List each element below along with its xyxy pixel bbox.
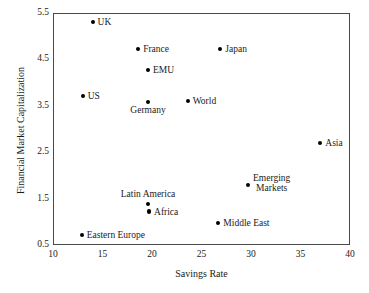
- data-point-label: Emerging Markets: [253, 174, 290, 194]
- y-tick-label: 2.5: [37, 147, 49, 157]
- data-point-marker[interactable]: [147, 209, 151, 213]
- y-tick-label: 0.5: [37, 240, 49, 250]
- data-point-label: Eastern Europe: [87, 231, 145, 241]
- data-point-label: Asia: [325, 139, 342, 149]
- x-axis-title: Savings Rate: [53, 268, 350, 279]
- data-point-label: Japan: [225, 45, 247, 55]
- x-tick-label: 25: [197, 250, 207, 260]
- data-point-marker[interactable]: [146, 202, 150, 206]
- x-tick-label: 35: [296, 250, 306, 260]
- data-point-marker[interactable]: [186, 99, 190, 103]
- data-point-label: Germany: [130, 106, 165, 116]
- data-point-label: US: [88, 92, 100, 102]
- data-point-label: Africa: [154, 208, 178, 218]
- data-point-marker[interactable]: [91, 20, 95, 24]
- y-tick-label: 5.5: [37, 8, 49, 18]
- y-axis-title: Financial Market Capitalization: [15, 15, 26, 247]
- data-point-label: Latin America: [121, 190, 176, 200]
- data-point-label: Middle East: [223, 219, 269, 229]
- data-point-label: France: [143, 45, 169, 55]
- data-point-label: UK: [98, 18, 112, 28]
- x-tick-label: 15: [98, 250, 108, 260]
- data-point-marker[interactable]: [81, 94, 85, 98]
- data-point-marker[interactable]: [246, 183, 250, 187]
- x-tick-label: 30: [246, 250, 256, 260]
- y-tick-label: 4.5: [37, 54, 49, 64]
- data-point-marker[interactable]: [146, 100, 150, 104]
- x-tick-label: 10: [48, 250, 58, 260]
- scatter-chart-figure: 0.51.52.53.54.55.5 10152025303540 UKFran…: [0, 0, 369, 293]
- plot-area-frame: [53, 13, 350, 245]
- x-axis-tick-labels: 10152025303540: [0, 250, 369, 266]
- data-point-marker[interactable]: [80, 233, 84, 237]
- y-tick-label: 1.5: [37, 194, 49, 204]
- x-tick-label: 20: [147, 250, 157, 260]
- y-tick-label: 3.5: [37, 101, 49, 111]
- data-point-label: World: [193, 97, 217, 107]
- x-tick-label: 40: [345, 250, 355, 260]
- data-point-label: EMU: [153, 66, 174, 76]
- data-point-marker[interactable]: [136, 47, 140, 51]
